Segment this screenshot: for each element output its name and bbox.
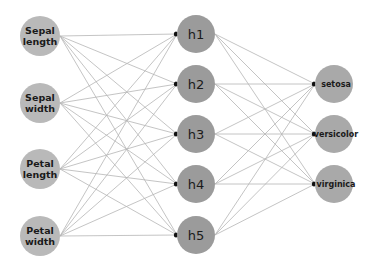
input-node-sepal-length: Sepallength (20, 16, 60, 56)
edge-h1-to-setosa (215, 34, 315, 84)
nodes-layer: SepallengthSepalwidthPetallengthPetalwid… (20, 15, 358, 256)
output-node-virginica: virginica (315, 165, 355, 203)
edge-petal-length-to-h4 (60, 169, 177, 184)
edge-sepal-width-to-h4 (60, 103, 177, 184)
node-label-line2: width (25, 103, 55, 114)
edge-petal-length-to-h5 (60, 169, 177, 235)
input-node-petal-length: Petallength (20, 149, 60, 189)
node-label: h4 (188, 177, 205, 192)
node-label-line1: Sepal (25, 92, 55, 103)
hidden-node-h2: h2 (177, 65, 215, 103)
edge-sepal-length-to-h1 (60, 34, 177, 36)
edge-petal-length-to-h2 (60, 84, 177, 169)
edge-sepal-width-to-h3 (60, 103, 177, 134)
output-node-versicolor: versicolor (314, 115, 359, 153)
node-label-line2: width (25, 236, 55, 247)
edge-h5-to-virginica (215, 184, 315, 235)
edge-sepal-width-to-h2 (60, 84, 177, 103)
node-label: h2 (188, 77, 205, 92)
node-label-line2: length (23, 169, 58, 180)
node-label-line2: length (23, 36, 58, 47)
node-label-line1: Sepal (25, 25, 55, 36)
hidden-node-h1: h1 (177, 15, 215, 53)
node-label: setosa (321, 80, 351, 89)
node-label: h5 (188, 228, 205, 243)
neural-network-diagram: SepallengthSepalwidthPetallengthPetalwid… (0, 0, 373, 271)
edge-h5-to-versicolor (215, 134, 315, 235)
node-label: h1 (188, 27, 205, 42)
edge-petal-length-to-h1 (60, 34, 177, 169)
edge-sepal-length-to-h3 (60, 36, 177, 134)
node-label: h3 (188, 127, 205, 142)
hidden-node-h3: h3 (177, 115, 215, 153)
edge-petal-width-to-h2 (60, 84, 177, 236)
node-label-line1: Petal (26, 158, 54, 169)
hidden-node-h5: h5 (177, 216, 215, 254)
edge-sepal-width-to-h5 (60, 103, 177, 235)
edge-h5-to-setosa (215, 84, 315, 235)
edge-sepal-length-to-h4 (60, 36, 177, 184)
input-node-sepal-width: Sepalwidth (20, 83, 60, 123)
node-label: versicolor (314, 130, 359, 139)
edge-petal-length-to-h3 (60, 134, 177, 169)
edge-petal-width-to-h5 (60, 235, 177, 236)
input-node-petal-width: Petalwidth (20, 216, 60, 256)
node-label: virginica (317, 180, 356, 189)
edge-petal-width-to-h4 (60, 184, 177, 236)
hidden-node-h4: h4 (177, 165, 215, 203)
output-node-setosa: setosa (315, 65, 353, 103)
edge-sepal-length-to-h2 (60, 36, 177, 84)
node-label-line1: Petal (26, 225, 54, 236)
edge-sepal-width-to-h1 (60, 34, 177, 103)
